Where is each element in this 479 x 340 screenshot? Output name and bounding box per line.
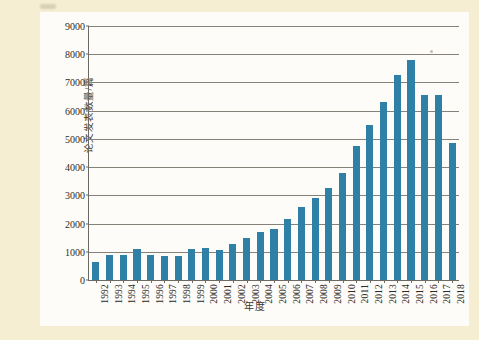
x-tick-mark-2005	[274, 280, 275, 283]
y-tick-label-0: 0	[80, 275, 85, 286]
bar-2007	[298, 207, 305, 280]
x-tick-mark-2004	[260, 280, 261, 283]
y-tick-label-8000: 8000	[65, 49, 85, 60]
y-tick-label-9000: 9000	[65, 21, 85, 32]
x-tick-mark-2000	[205, 280, 206, 283]
x-tick-mark-1999	[192, 280, 193, 283]
bar-1996	[147, 255, 154, 280]
x-tick-mark-1996	[151, 280, 152, 283]
bar-1997	[161, 256, 168, 280]
y-tick-label-4000: 4000	[65, 162, 85, 173]
bar-2018	[449, 143, 456, 280]
x-tick-mark-2002	[233, 280, 234, 283]
x-tick-mark-1995	[137, 280, 138, 283]
x-tick-mark-2016	[425, 280, 426, 283]
bars-layer	[89, 26, 459, 280]
x-tick-mark-2001	[219, 280, 220, 283]
bar-1998	[175, 256, 182, 280]
x-tick-mark-1992	[96, 280, 97, 283]
y-tick-label-5000: 5000	[65, 133, 85, 144]
bar-1999	[188, 249, 195, 280]
y-tick-label-7000: 7000	[65, 77, 85, 88]
chart-figure: 论文发表数量/篇 0100020003000400050006000700080…	[40, 12, 469, 326]
x-tick-mark-1997	[164, 280, 165, 283]
bar-2000	[202, 248, 209, 280]
x-tick-mark-2011	[356, 280, 357, 283]
bar-2012	[366, 125, 373, 280]
x-tick-mark-1998	[178, 280, 179, 283]
bar-2003	[243, 238, 250, 280]
bar-2004	[257, 232, 264, 280]
x-tick-mark-1994	[123, 280, 124, 283]
x-tick-mark-2017	[438, 280, 439, 283]
bar-1995	[133, 249, 140, 280]
scan-artifact-top	[40, 4, 56, 9]
bar-2015	[407, 60, 414, 280]
bar-2013	[380, 102, 387, 280]
x-tick-mark-2006	[288, 280, 289, 283]
bar-2010	[339, 173, 346, 280]
x-tick-mark-2008	[315, 280, 316, 283]
bar-2005	[270, 229, 277, 280]
x-tick-mark-2013	[384, 280, 385, 283]
y-tick-label-1000: 1000	[65, 246, 85, 257]
bar-2009	[325, 188, 332, 280]
x-tick-mark-2010	[343, 280, 344, 283]
x-tick-mark-2003	[247, 280, 248, 283]
bar-1994	[120, 255, 127, 280]
bar-2006	[284, 219, 291, 280]
bar-2017	[435, 95, 442, 280]
bar-2002	[229, 244, 236, 280]
x-axis-title: 年度	[40, 298, 469, 313]
bar-2014	[394, 75, 401, 280]
y-tick-label-2000: 2000	[65, 218, 85, 229]
y-tick-label-6000: 6000	[65, 105, 85, 116]
bar-1993	[106, 255, 113, 280]
bar-2001	[216, 250, 223, 280]
x-tick-mark-2007	[301, 280, 302, 283]
x-tick-mark-2012	[370, 280, 371, 283]
bar-1992	[92, 262, 99, 280]
x-tick-mark-2015	[411, 280, 412, 283]
bar-2011	[353, 146, 360, 280]
x-tick-mark-2018	[452, 280, 453, 283]
x-tick-mark-2009	[329, 280, 330, 283]
bar-2016	[421, 95, 428, 280]
plot-area: 0100020003000400050006000700080009000 19…	[88, 26, 459, 281]
bar-2008	[312, 198, 319, 280]
y-tick-label-3000: 3000	[65, 190, 85, 201]
x-tick-mark-1993	[110, 280, 111, 283]
x-tick-mark-2014	[397, 280, 398, 283]
